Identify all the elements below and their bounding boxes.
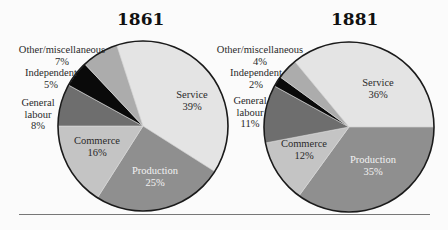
pie-chart-1881 — [264, 42, 434, 212]
label-pct: 36% — [356, 89, 400, 101]
label-text: Service — [356, 77, 400, 89]
chart-title-1861: 1861 — [117, 9, 164, 29]
label-commerce-1861: Commerce 16% — [69, 135, 125, 158]
label-text: Independent — [21, 67, 81, 79]
label-other-1861: Other/miscellaneous 7% — [17, 44, 107, 67]
label-text: labour — [230, 107, 270, 119]
label-text: General — [18, 97, 58, 109]
label-production-1881: Production 35% — [340, 154, 406, 177]
label-pct: 7% — [17, 56, 107, 68]
bottom-divider — [19, 214, 430, 215]
label-pct: 35% — [340, 166, 406, 178]
label-text: Production — [340, 154, 406, 166]
label-text: Commerce — [69, 135, 125, 147]
label-general-labour-1861: General labour 8% — [18, 97, 58, 132]
label-pct: 11% — [230, 118, 270, 130]
label-general-labour-1881: General labour 11% — [230, 95, 270, 130]
chart-title-1881: 1881 — [331, 9, 378, 29]
label-independent-1861: Independent 5% — [21, 67, 81, 90]
label-pct: 2% — [226, 79, 286, 91]
label-production-1861: Production 25% — [122, 165, 188, 188]
label-text: Other/miscellaneous — [17, 44, 107, 56]
label-pct: 39% — [170, 101, 214, 113]
label-other-1881: Other/miscellaneous 4% — [215, 44, 305, 67]
label-independent-1881: Independent 2% — [226, 67, 286, 90]
label-service-1861: Service 39% — [170, 89, 214, 112]
pie-charts-canvas — [0, 0, 448, 230]
label-text: General — [230, 95, 270, 107]
label-pct: 8% — [18, 120, 58, 132]
label-pct: 4% — [215, 56, 305, 68]
label-service-1881: Service 36% — [356, 77, 400, 100]
label-pct: 12% — [276, 150, 332, 162]
label-text: Independent — [226, 67, 286, 79]
label-text: Commerce — [276, 138, 332, 150]
label-pct: 25% — [122, 177, 188, 189]
label-text: Production — [122, 165, 188, 177]
label-text: Other/miscellaneous — [215, 44, 305, 56]
label-text: labour — [18, 109, 58, 121]
label-text: Service — [170, 89, 214, 101]
label-pct: 5% — [21, 79, 81, 91]
label-commerce-1881: Commerce 12% — [276, 138, 332, 161]
label-pct: 16% — [69, 147, 125, 159]
